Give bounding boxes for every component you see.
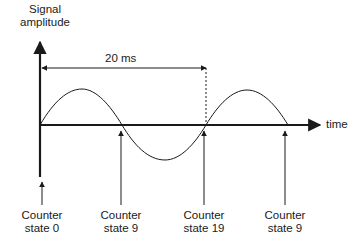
x-axis-label: time [326, 118, 348, 131]
y-axis-label: Signal amplitude [12, 3, 78, 29]
marker-label-3: Counter state 9 [255, 209, 315, 235]
y-axis-label-line1: Signal [12, 3, 78, 16]
marker-label-1-line2: state 9 [91, 222, 151, 235]
marker-label-1: Counter state 9 [91, 209, 151, 235]
y-axis-label-line2: amplitude [12, 16, 78, 29]
marker-label-0-line2: state 0 [12, 222, 72, 235]
period-label: 20 ms [105, 52, 136, 65]
marker-label-2-line1: Counter [174, 209, 234, 222]
marker-label-2: Counter state 19 [174, 209, 234, 235]
marker-label-0: Counter state 0 [12, 209, 72, 235]
marker-label-3-line2: state 9 [255, 222, 315, 235]
marker-label-1-line1: Counter [91, 209, 151, 222]
marker-label-3-line1: Counter [255, 209, 315, 222]
marker-label-2-line2: state 19 [174, 222, 234, 235]
marker-label-0-line1: Counter [12, 209, 72, 222]
signal-diagram [0, 0, 357, 244]
